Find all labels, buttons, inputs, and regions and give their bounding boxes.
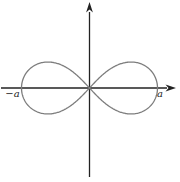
lemniscate-plot: −a a: [0, 0, 180, 182]
left-intercept-label: −a: [5, 88, 19, 99]
right-intercept-label: a: [157, 88, 163, 99]
y-axis-arrow-icon: [86, 2, 93, 13]
x-axis-arrow-icon: [166, 85, 177, 92]
figure-canvas: −a a: [0, 0, 180, 182]
